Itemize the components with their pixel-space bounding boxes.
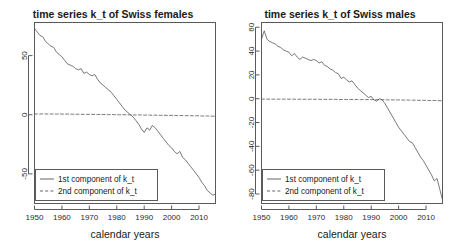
legend-label-2nd-component-males: 2nd component of k_t bbox=[285, 187, 364, 196]
x-tick-label: 1950 bbox=[26, 213, 44, 222]
x-tick-label: 1980 bbox=[335, 213, 353, 222]
x-tick-label: 1950 bbox=[253, 213, 271, 222]
y-tick-label: 60 bbox=[247, 22, 256, 31]
y-tick-label: 20 bbox=[247, 70, 256, 79]
x-axis-title-males: calendar years bbox=[318, 228, 387, 240]
y-tick-label: -20 bbox=[247, 116, 256, 128]
x-tick-label: 1980 bbox=[108, 213, 126, 222]
x-tick-label: 2010 bbox=[417, 213, 435, 222]
y-tick-label: 50 bbox=[20, 51, 29, 60]
chart-svg-females: time series k_t of Swiss females 500-50 … bbox=[0, 0, 226, 245]
legend-label-1st-component-females: 1st component of k_t bbox=[58, 175, 135, 184]
y-tick-label: -60 bbox=[247, 164, 256, 176]
legend-label-2nd-component-females: 2nd component of k_t bbox=[58, 187, 137, 196]
legend-females[interactable]: 1st component of k_t 2nd component of k_… bbox=[36, 170, 158, 201]
y-tick-label: -50 bbox=[20, 168, 29, 180]
chart-title-females: time series k_t of Swiss females bbox=[33, 8, 194, 20]
y-tick-label: 0 bbox=[247, 96, 256, 101]
chart-panel-swiss-males: time series k_t of Swiss males 6040200-2… bbox=[227, 0, 453, 245]
y-tick-label: -40 bbox=[247, 140, 256, 152]
legend-label-1st-component-males: 1st component of k_t bbox=[285, 175, 362, 184]
x-axis-title-females: calendar years bbox=[91, 228, 160, 240]
y-tick-label: 0 bbox=[20, 112, 29, 117]
x-axis-males: 1950196019701980199020002010 bbox=[253, 206, 436, 222]
y-tick-label: 40 bbox=[247, 46, 256, 55]
x-tick-label: 1970 bbox=[80, 213, 98, 222]
chart-panel-swiss-females: time series k_t of Swiss females 500-50 … bbox=[0, 0, 226, 245]
x-axis-females: 1950196019701980199020002010 bbox=[26, 206, 209, 222]
y-tick-label: -80 bbox=[247, 188, 256, 200]
x-tick-label: 2010 bbox=[190, 213, 208, 222]
series-line-2nd-component-males bbox=[262, 99, 443, 101]
x-tick-label: 2000 bbox=[390, 213, 408, 222]
x-tick-label: 1960 bbox=[53, 213, 71, 222]
legend-males[interactable]: 1st component of k_t 2nd component of k_… bbox=[263, 170, 385, 201]
x-tick-label: 1970 bbox=[307, 213, 325, 222]
x-tick-label: 1960 bbox=[280, 213, 298, 222]
chart-title-males: time series k_t of Swiss males bbox=[264, 8, 415, 20]
y-axis-females: 500-50 bbox=[20, 51, 33, 180]
x-tick-label: 1990 bbox=[135, 213, 153, 222]
x-tick-label: 1990 bbox=[362, 213, 380, 222]
y-axis-males: 6040200-20-40-60-80 bbox=[247, 22, 260, 199]
series-line-2nd-component-females bbox=[35, 114, 216, 116]
chart-svg-males: time series k_t of Swiss males 6040200-2… bbox=[227, 0, 453, 245]
x-tick-label: 2000 bbox=[163, 213, 181, 222]
figure-canvas: time series k_t of Swiss females 500-50 … bbox=[0, 0, 453, 245]
